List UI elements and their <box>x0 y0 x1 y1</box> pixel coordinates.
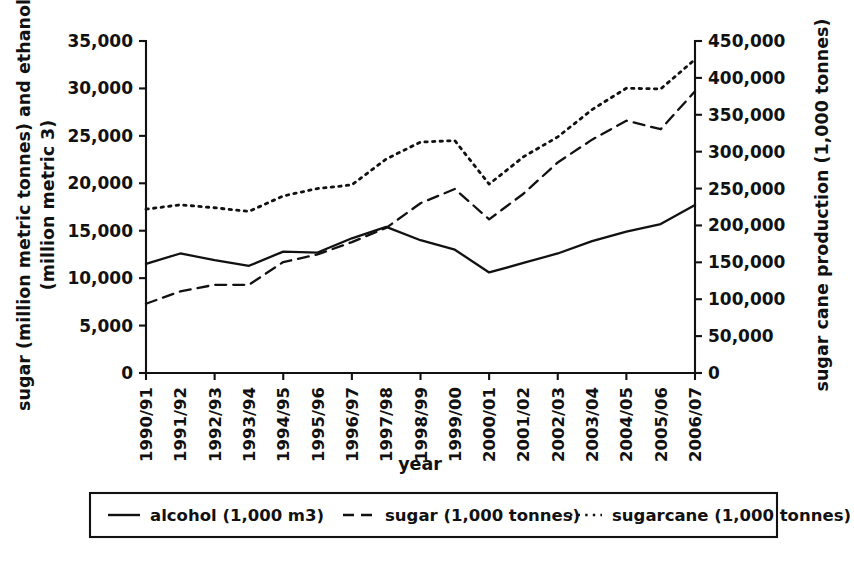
x-axis-category-label: 1994/95 <box>274 387 293 462</box>
y-left-tick-label: 25,000 <box>67 126 133 146</box>
x-axis-category-labels: 1990/911991/921992/931993/941994/951995/… <box>137 387 705 462</box>
series-line-dashed <box>146 91 695 303</box>
y-left-tick-label: 30,000 <box>67 78 133 98</box>
y-axis-right-ticks: 050,000100,000150,000200,000250,000300,0… <box>695 31 786 383</box>
y-axis-left-title-line2: (million metric 3) <box>38 120 58 291</box>
y-right-tick-label: 250,000 <box>708 179 786 199</box>
y-left-tick-label: 15,000 <box>67 221 133 241</box>
y-right-tick-label: 0 <box>708 363 720 383</box>
plot-axes-frame <box>146 41 695 373</box>
y-left-tick-label: 35,000 <box>67 31 133 51</box>
y-left-tick-label: 0 <box>121 363 133 383</box>
line-chart-figure: sugar (million metric tonnes) and ethano… <box>0 0 854 574</box>
x-axis-category-label: 1999/00 <box>446 387 465 462</box>
chart-legend: alcohol (1,000 m3)sugar (1,000 tonnes)su… <box>90 493 851 537</box>
series-line-solid <box>146 205 695 272</box>
x-axis-category-label: 1990/91 <box>137 387 156 462</box>
series-line-dotted <box>146 59 695 211</box>
x-axis-category-label: 1995/96 <box>309 387 328 462</box>
data-series-group <box>146 59 695 303</box>
y-left-tick-label: 10,000 <box>67 268 133 288</box>
y-left-tick-label: 5,000 <box>79 316 133 336</box>
y-right-tick-label: 100,000 <box>708 289 786 309</box>
x-axis-category-label: 2001/02 <box>514 387 533 462</box>
x-axis-category-label: 1998/99 <box>412 387 431 462</box>
legend-entry-label: sugar (1,000 tonnes) <box>385 506 580 525</box>
axes-group <box>146 41 695 373</box>
x-axis-category-label: 2005/06 <box>652 387 671 462</box>
y-axis-left-ticks: 05,00010,00015,00020,00025,00030,00035,0… <box>67 31 146 383</box>
x-axis-category-label: 2000/01 <box>480 387 499 462</box>
y-right-tick-label: 350,000 <box>708 105 786 125</box>
y-right-tick-label: 200,000 <box>708 215 786 235</box>
x-axis-category-label: 2004/05 <box>617 387 636 462</box>
x-axis-category-label: 1991/92 <box>171 387 190 462</box>
x-axis-category-label: 1993/94 <box>240 387 259 462</box>
x-axis-category-label: 1997/98 <box>377 387 396 462</box>
legend-entry-label: sugarcane (1,000 tonnes) <box>612 506 851 525</box>
x-axis-category-label: 2006/07 <box>686 387 705 462</box>
y-axis-left-title-line1: sugar (million metric tonnes) and ethano… <box>14 0 34 411</box>
y-right-tick-label: 50,000 <box>708 326 774 346</box>
y-right-tick-label: 450,000 <box>708 31 786 51</box>
y-right-tick-label: 400,000 <box>708 68 786 88</box>
y-axis-right-title: sugar cane production (1,000 tonnes) <box>812 18 832 391</box>
x-axis-category-label: 2002/03 <box>549 387 568 462</box>
y-left-tick-label: 20,000 <box>67 173 133 193</box>
y-right-tick-label: 300,000 <box>708 142 786 162</box>
x-axis-category-label: 2003/04 <box>583 387 602 462</box>
x-axis-category-label: 1992/93 <box>206 387 225 462</box>
chart-container: sugar (million metric tonnes) and ethano… <box>0 0 854 574</box>
legend-entry-label: alcohol (1,000 m3) <box>150 506 324 525</box>
x-axis-category-label: 1996/97 <box>343 387 362 462</box>
y-right-tick-label: 150,000 <box>708 252 786 272</box>
